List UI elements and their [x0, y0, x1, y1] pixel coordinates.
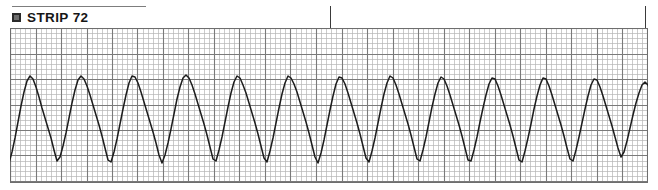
- strip-label: STRIP 72: [27, 11, 88, 25]
- header-rule: [12, 6, 146, 7]
- event-tick-2: [645, 6, 646, 28]
- event-tick-1: [330, 6, 331, 28]
- strip-caption: STRIP 72: [12, 9, 88, 26]
- filled-square-bullet-icon: [12, 13, 21, 22]
- ecg-rhythm-strip: STRIP 72: [0, 0, 658, 190]
- ecg-grid-panel: [10, 28, 648, 183]
- ecg-canvas: [10, 28, 648, 183]
